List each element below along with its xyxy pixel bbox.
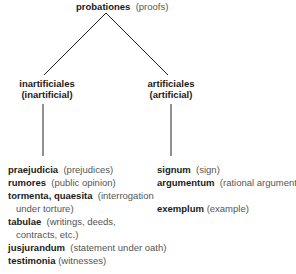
root-node: probationes (proofs) <box>76 1 168 12</box>
list-item: tabulae (writings, deeds, <box>8 215 166 228</box>
list-item-continuation: under torture) <box>8 202 166 215</box>
left-term: inartificiales <box>19 78 74 89</box>
left-gloss: (inartificial) <box>21 89 72 100</box>
right-node: artificiales (artificial) <box>142 78 200 100</box>
list-item: praejudicia (prejudices) <box>8 163 166 176</box>
right-gloss: (artificial) <box>150 89 193 100</box>
root-gloss: (proofs) <box>136 1 169 12</box>
list-item-continuation: contracts, etc.) <box>8 228 166 241</box>
left-list: praejudicia (prejudices) rumores (public… <box>8 163 166 267</box>
left-node: inartificiales (inartificial) <box>18 78 76 100</box>
right-term: artificiales <box>148 78 195 89</box>
list-item: testimonia (witnesses) <box>8 254 166 267</box>
list-item: exemplum (example) <box>157 202 296 215</box>
right-list: signum (sign) argumentum (rational argum… <box>157 163 296 215</box>
list-item: tormenta, quaesita (interrogation <box>8 189 166 202</box>
root-term: probationes <box>76 1 130 12</box>
list-item: rumores (public opinion) <box>8 176 166 189</box>
list-item: jusjurandum (statement under oath) <box>8 241 166 254</box>
list-item: signum (sign) <box>157 163 296 176</box>
list-item: argumentum (rational argument) <box>157 176 296 189</box>
